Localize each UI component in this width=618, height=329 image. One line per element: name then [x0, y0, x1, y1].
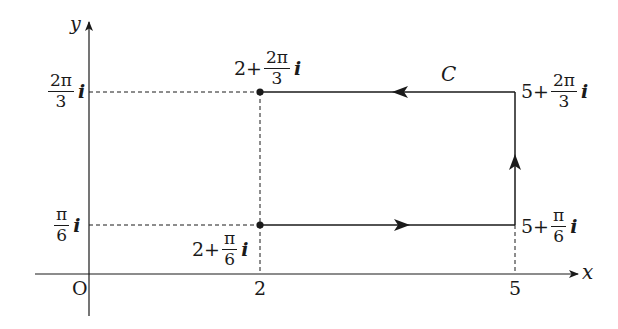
denominator: 6 [56, 226, 67, 245]
contour-label: C [441, 64, 456, 84]
real-part: 2 [192, 240, 204, 259]
fraction: 2π 3 [48, 72, 74, 111]
y-tick-2pi-over-3: 2π 3 i [46, 72, 85, 111]
fraction: π 6 [222, 230, 237, 269]
imaginary-unit: i [581, 82, 588, 101]
real-part: 2 [234, 59, 246, 78]
fraction: 2π 3 [264, 49, 290, 88]
plus-sign: + [246, 59, 262, 78]
numerator: 2π [551, 72, 577, 92]
vertex-label-top-right: 5 + 2π 3 i [521, 72, 588, 111]
diagram-canvas [0, 0, 618, 329]
imaginary-unit: i [241, 240, 248, 259]
vertex-label-top-left: 2 + 2π 3 i [234, 49, 301, 88]
imaginary-unit: i [294, 59, 301, 78]
x-tick-2: 2 [254, 279, 266, 298]
plus-sign: + [533, 217, 549, 236]
fraction: π 6 [54, 206, 69, 245]
imaginary-unit: i [78, 82, 85, 101]
numerator: π [222, 230, 237, 250]
origin-label: O [72, 279, 88, 298]
vertex-label-bottom-left: 2 + π 6 i [192, 230, 248, 269]
real-part: 5 [521, 217, 533, 236]
imaginary-unit: i [73, 216, 80, 235]
numerator: 2π [48, 72, 74, 92]
y-tick-pi-over-6: π 6 i [52, 206, 80, 245]
real-part: 5 [521, 82, 533, 101]
x-tick-5: 5 [509, 279, 521, 298]
denominator: 3 [559, 92, 570, 111]
numerator: π [54, 206, 69, 226]
y-axis-label: y [70, 14, 81, 33]
numerator: 2π [264, 49, 290, 69]
vertex-dot-bottom-left [256, 221, 263, 228]
fraction: π 6 [551, 207, 566, 246]
denominator: 6 [224, 250, 235, 269]
vertex-label-bottom-right: 5 + π 6 i [521, 207, 577, 246]
denominator: 3 [272, 69, 283, 88]
imaginary-unit: i [570, 217, 577, 236]
denominator: 3 [56, 92, 67, 111]
plus-sign: + [533, 82, 549, 101]
vertex-dot-top-left [256, 88, 263, 95]
x-axis-label: x [582, 262, 593, 282]
denominator: 6 [553, 227, 564, 246]
fraction: 2π 3 [551, 72, 577, 111]
plus-sign: + [204, 240, 220, 259]
numerator: π [551, 207, 566, 227]
